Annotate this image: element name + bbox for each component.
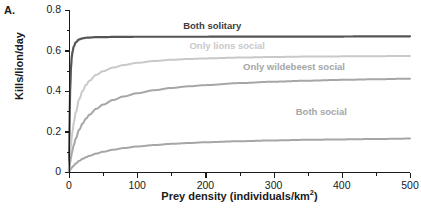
y-tick-label: 0.8 [27,3,61,15]
x-tick-label: 300 [254,179,294,191]
curve-both-social [69,139,410,172]
x-tick-label: 400 [322,179,362,191]
y-tick-label: 0 [27,165,61,177]
x-tick-label: 100 [117,179,157,191]
curve-only-lions-social [69,56,410,172]
y-tick-label: 0.4 [27,84,61,96]
y-tick-label: 0.2 [27,125,61,137]
x-tick-label: 200 [185,179,225,191]
curve-label-only-wildebeest-social: Only wildebeest social [243,61,345,72]
curve-label-both-solitary: Both solitary [183,20,241,31]
x-tick-label: 0 [49,179,89,191]
curve-label-both-social: Both social [296,106,347,117]
x-tick-label: 500 [390,179,421,191]
curve-group [69,36,410,172]
curve-label-only-lions-social: Only lions social [189,40,265,51]
y-tick-label: 0.6 [27,44,61,56]
figure-panel-a: A. Kills/lion/day Prey density (individu… [0,0,421,211]
curve-only-wildebeest-social [69,79,410,172]
axes-group [65,10,411,178]
